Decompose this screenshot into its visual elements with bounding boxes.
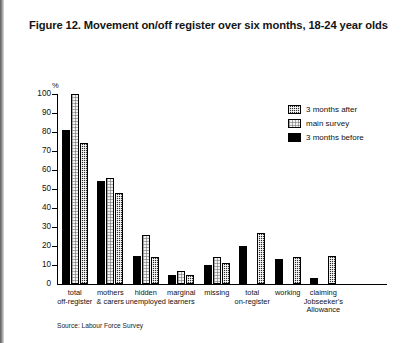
- bar-group: [199, 94, 235, 284]
- legend-label: 3 months before: [306, 133, 364, 142]
- bar: [80, 143, 88, 284]
- bar-group: [93, 94, 129, 284]
- y-axis-tick: [52, 132, 58, 133]
- chart-legend: 3 months aftermain survey3 months before: [288, 103, 364, 145]
- legend-item: 3 months before: [288, 131, 364, 144]
- y-axis-tick-label: 30: [29, 223, 51, 231]
- bar: [328, 256, 336, 285]
- bar-group: [57, 94, 93, 284]
- legend-swatch: [288, 119, 301, 128]
- bar: [62, 130, 70, 284]
- legend-label: main survey: [306, 119, 349, 128]
- bar: [115, 193, 123, 284]
- y-axis-tick-label: 0: [29, 280, 51, 288]
- bar: [97, 181, 105, 284]
- bar: [71, 94, 79, 284]
- bar-group: [164, 94, 200, 284]
- scan-edge-artifact: [0, 0, 4, 343]
- y-axis-tick-label: 20: [29, 242, 51, 250]
- y-axis-tick-label: 100: [29, 90, 51, 98]
- bar: [204, 265, 212, 284]
- bar: [213, 257, 221, 284]
- bar: [106, 178, 114, 284]
- source-note: Source: Labour Force Survey: [57, 322, 143, 329]
- legend-swatch: [288, 133, 301, 142]
- y-axis-tick-label: 40: [29, 204, 51, 212]
- bar: [142, 235, 150, 284]
- bar: [151, 257, 159, 284]
- bar: [257, 233, 265, 284]
- bar: [186, 275, 194, 285]
- y-axis-tick: [52, 265, 58, 266]
- y-axis-tick: [52, 94, 58, 95]
- y-axis-labels: 1009080706050403020100: [25, 90, 51, 290]
- bar: [293, 257, 301, 284]
- figure-page: Figure 12. Movement on/off register over…: [0, 0, 416, 343]
- bar: [239, 246, 247, 284]
- x-axis-category-label: claiming Jobseeker's Allowance: [297, 289, 351, 315]
- y-axis-tick: [52, 208, 58, 209]
- y-axis-unit-label: %: [52, 81, 59, 90]
- y-axis-tick-label: 60: [29, 166, 51, 174]
- y-axis-tick: [52, 151, 58, 152]
- x-axis-line: [57, 284, 387, 285]
- bar: [168, 275, 176, 285]
- y-axis-tick-label: 80: [29, 128, 51, 136]
- y-axis-tick-label: 90: [29, 109, 51, 117]
- y-axis-tick: [52, 113, 58, 114]
- bar: [222, 263, 230, 284]
- y-axis-tick-label: 50: [29, 185, 51, 193]
- y-axis-tick-label: 10: [29, 261, 51, 269]
- y-axis-tick: [52, 227, 58, 228]
- y-axis-tick: [52, 246, 58, 247]
- legend-item: main survey: [288, 117, 364, 130]
- legend-label: 3 months after: [306, 105, 357, 114]
- bar-group: [235, 94, 271, 284]
- legend-swatch: [288, 105, 301, 114]
- y-axis-tick-label: 70: [29, 147, 51, 155]
- legend-item: 3 months after: [288, 103, 364, 116]
- bar-group: [128, 94, 164, 284]
- y-axis-tick: [52, 189, 58, 190]
- bar: [275, 259, 283, 284]
- bar: [133, 256, 141, 285]
- bar: [177, 271, 185, 284]
- y-axis-tick: [52, 170, 58, 171]
- page-title: Figure 12. Movement on/off register over…: [29, 19, 409, 31]
- bar: [310, 278, 318, 284]
